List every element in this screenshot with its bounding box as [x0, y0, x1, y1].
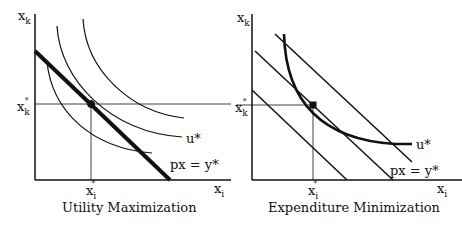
y-axis-label: xk — [18, 9, 31, 22]
optimum-point — [310, 102, 316, 108]
u-star-label: u* — [186, 132, 201, 145]
budget-line-label: px = y* — [390, 164, 439, 177]
utility-maximization-diagram — [35, 14, 231, 180]
diagrams-canvas — [0, 0, 462, 227]
budget-line-label: px = y* — [170, 158, 219, 171]
xk-star-label: xk* — [235, 101, 252, 114]
budget-line-low — [252, 90, 347, 180]
expenditure-minimization-diagram — [236, 14, 462, 180]
indifference-curve-u-star — [284, 34, 412, 144]
xk-star-label: xk* — [17, 100, 34, 113]
xi-star-label: xi* — [86, 184, 100, 197]
indifference-curve-u-star — [57, 26, 182, 137]
budget-line — [35, 51, 170, 180]
caption-utility-maximization: Utility Maximization — [62, 200, 197, 215]
xi-star-label: xi* — [308, 184, 322, 197]
optimum-point — [88, 101, 95, 108]
caption-expenditure-minimization: Expenditure Minimization — [268, 200, 440, 215]
x-axis-label: xi — [214, 182, 224, 195]
budget-line-y-star — [255, 51, 393, 180]
x-axis-label: xi — [437, 182, 447, 195]
y-axis-label: xk — [237, 11, 250, 24]
u-star-label: u* — [416, 138, 431, 151]
